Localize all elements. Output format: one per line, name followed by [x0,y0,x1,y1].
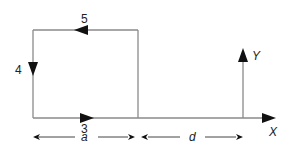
x-axis-label: X [269,126,277,138]
loop-diagram [0,0,298,153]
dim-arrow-right-icon [128,134,135,140]
current-arrow-left-icon [74,25,88,35]
y-axis-label: Y [252,50,260,62]
current-arrow-down-icon [28,62,38,76]
dim-arrow-left-icon [141,134,148,140]
current-loop [33,30,138,118]
x-axis-arrowhead-icon [262,113,276,123]
left-side-label: 4 [15,64,22,76]
dimension-a-label: a [81,131,88,143]
top-side-label: 5 [81,13,88,25]
dim-arrow-right-icon [236,134,243,140]
dimension-d-label: d [189,131,196,143]
y-axis-arrowhead-icon [238,48,248,62]
